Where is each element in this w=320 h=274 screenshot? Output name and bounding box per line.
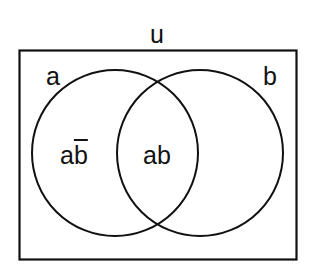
set-a-label: a: [46, 64, 60, 89]
region-a-not-b-base: a: [60, 141, 74, 169]
region-a-not-b-label: ab: [60, 143, 88, 168]
set-b-circle: [117, 70, 283, 236]
region-intersection-label: ab: [143, 143, 171, 168]
set-b-label: b: [263, 64, 277, 89]
universe-label: u: [150, 22, 164, 47]
region-a-not-b-complement: b: [74, 141, 88, 169]
set-a-circle: [32, 70, 198, 236]
